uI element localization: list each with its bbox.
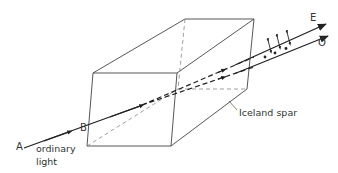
label-ordinary: ordinary <box>36 143 76 154</box>
label-o: O <box>318 37 326 48</box>
crystal-label-leader <box>229 101 237 110</box>
label-e: E <box>310 12 316 23</box>
top-right-edge <box>177 19 254 73</box>
polarization-arrow-icon <box>287 32 290 44</box>
polarization-dot-icon <box>264 56 267 59</box>
label-iceland-spar: Iceland spar <box>239 107 297 118</box>
extraordinary-ray <box>235 24 326 65</box>
back-right-vertical-edge <box>247 19 254 89</box>
bottom-right-edge <box>171 89 247 146</box>
label-a: A <box>16 141 23 152</box>
iceland-spar-crystal <box>87 19 254 146</box>
ordinary-ray <box>235 36 328 74</box>
incident-arrow-icon <box>44 132 70 141</box>
top-left-edge <box>93 19 185 73</box>
label-b: B <box>80 122 87 133</box>
birefringence-diagram: A B ordinary light Iceland spar E O <box>0 0 338 173</box>
inner-arrow-icon <box>110 105 142 117</box>
hidden-back-vertical-edge <box>178 19 185 89</box>
hidden-bottom-left-edge <box>87 89 178 146</box>
internal-e-arrow-icon <box>218 70 224 73</box>
internal-o-arrow-icon <box>218 77 224 79</box>
polarization-dot-icon <box>285 47 288 50</box>
label-light: light <box>36 156 57 167</box>
polarization-dot-icon <box>274 52 277 55</box>
